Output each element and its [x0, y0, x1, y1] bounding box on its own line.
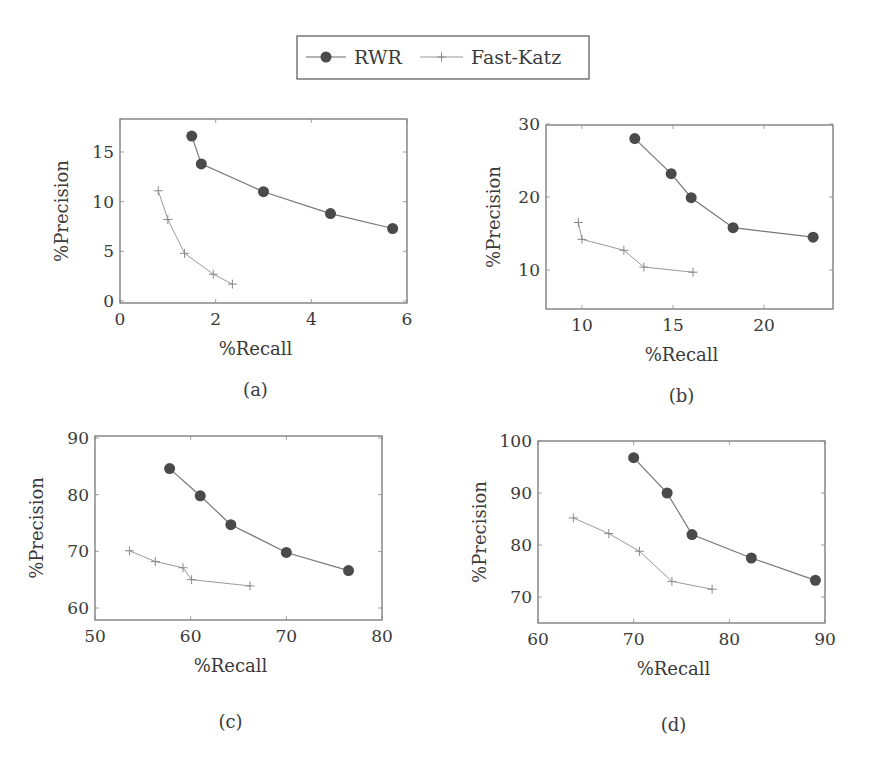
subplot-d: 60708090708090100%Recall%Precision(d)	[469, 431, 836, 735]
data-point-circle-icon	[196, 158, 207, 169]
x-tick-label: 90	[814, 629, 836, 649]
series-line	[158, 191, 232, 284]
data-point-circle-icon	[628, 452, 639, 463]
data-point-plus-icon	[163, 215, 172, 224]
subplot-a: 0246051015%Recall%Precision(a)	[51, 119, 412, 400]
x-axis-label: %Recall	[637, 658, 711, 679]
data-point-circle-icon	[687, 529, 698, 540]
series-rwr	[628, 452, 821, 586]
data-point-circle-icon	[666, 168, 677, 179]
data-point-circle-icon	[746, 553, 757, 564]
y-tick-label: 90	[67, 428, 89, 448]
data-point-circle-icon	[387, 223, 398, 234]
data-point-plus-icon	[154, 186, 163, 195]
y-tick-label: 90	[510, 483, 532, 503]
data-point-circle-icon	[281, 547, 292, 558]
x-axis-label: %Recall	[219, 338, 293, 359]
y-tick-label: 0	[103, 291, 114, 311]
x-tick-label: 2	[210, 309, 221, 329]
legend-rwr-label: RWR	[354, 46, 402, 68]
series-rwr	[629, 133, 818, 243]
y-axis-label: %Precision	[469, 481, 490, 583]
data-point-plus-icon	[689, 268, 698, 277]
y-tick-label: 60	[67, 598, 89, 618]
legend: RWR Fast-Katz	[297, 36, 589, 79]
series-fast-katz	[569, 513, 717, 593]
y-tick-label: 10	[518, 260, 540, 280]
x-tick-label: 70	[623, 629, 645, 649]
x-tick-label: 20	[753, 315, 775, 335]
y-tick-label: 70	[510, 587, 532, 607]
data-point-plus-icon	[125, 546, 134, 555]
series-rwr	[164, 463, 354, 576]
legend-rwr-marker-icon	[321, 52, 332, 63]
x-tick-label: 6	[402, 309, 413, 329]
x-tick-label: 60	[180, 626, 202, 646]
data-point-circle-icon	[629, 133, 640, 144]
data-point-plus-icon	[228, 280, 237, 289]
data-point-circle-icon	[164, 463, 175, 474]
data-point-plus-icon	[708, 585, 717, 594]
y-tick-label: 30	[518, 114, 540, 134]
data-point-circle-icon	[728, 222, 739, 233]
data-point-circle-icon	[195, 490, 206, 501]
series-line	[192, 136, 393, 228]
series-line	[578, 223, 693, 273]
y-tick-label: 100	[500, 431, 532, 451]
plot-frame-b	[546, 125, 833, 309]
x-tick-label: 50	[84, 626, 106, 646]
subplot-caption-b: (b)	[669, 385, 695, 406]
x-tick-label: 60	[527, 629, 549, 649]
data-point-plus-icon	[569, 513, 578, 522]
data-point-circle-icon	[325, 208, 336, 219]
data-point-plus-icon	[604, 529, 613, 538]
x-tick-label: 80	[719, 629, 741, 649]
subplot-c: 5060708060708090%Recall%Precision(c)	[26, 428, 393, 732]
series-line	[573, 518, 712, 589]
y-axis-label: %Precision	[483, 166, 504, 268]
subplot-caption-c: (c)	[218, 711, 242, 732]
y-tick-label: 80	[510, 535, 532, 555]
y-tick-label: 80	[67, 485, 89, 505]
data-point-plus-icon	[151, 557, 160, 566]
data-point-plus-icon	[245, 581, 254, 590]
series-fast-katz	[574, 218, 698, 277]
subplot-b: 101520102030%Recall%Precision(b)	[483, 114, 833, 406]
x-axis-label: %Recall	[645, 344, 719, 365]
series-line	[129, 551, 250, 586]
data-point-circle-icon	[808, 232, 819, 243]
x-tick-label: 10	[571, 315, 593, 335]
x-tick-label: 80	[371, 626, 393, 646]
y-tick-label: 15	[92, 142, 114, 162]
data-point-plus-icon	[574, 218, 583, 227]
x-tick-label: 4	[306, 309, 317, 329]
subplots: 0246051015%Recall%Precision(a)1015201020…	[26, 114, 836, 735]
data-point-circle-icon	[258, 186, 269, 197]
data-point-circle-icon	[225, 519, 236, 530]
series-fast-katz	[154, 186, 237, 288]
x-tick-label: 0	[115, 309, 126, 329]
data-point-circle-icon	[686, 192, 697, 203]
data-point-plus-icon	[578, 235, 587, 244]
data-point-plus-icon	[179, 563, 188, 572]
x-axis-label: %Recall	[194, 655, 268, 676]
subplot-caption-a: (a)	[243, 379, 268, 400]
data-point-circle-icon	[186, 131, 197, 142]
series-fast-katz	[125, 546, 255, 590]
data-point-plus-icon	[209, 270, 218, 279]
series-rwr	[186, 131, 398, 234]
data-point-plus-icon	[187, 575, 196, 584]
subplot-caption-d: (d)	[661, 714, 687, 735]
y-axis-label: %Precision	[26, 477, 47, 579]
series-line	[170, 469, 349, 571]
series-line	[635, 139, 813, 238]
plot-frame-d	[538, 441, 825, 623]
y-axis-label: %Precision	[51, 160, 72, 262]
y-tick-label: 5	[103, 241, 114, 261]
plot-frame-a	[120, 119, 407, 303]
data-point-circle-icon	[662, 488, 673, 499]
y-tick-label: 20	[518, 187, 540, 207]
series-line	[634, 458, 816, 581]
figure-canvas: RWR Fast-Katz 0246051015%Recall%Precisio…	[0, 0, 872, 759]
x-tick-label: 70	[276, 626, 298, 646]
